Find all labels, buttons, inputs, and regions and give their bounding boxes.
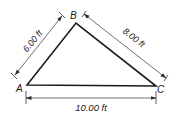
diagram-canvas: A B C 6.00 ft 8.00 ft 10.00 ft [0,0,178,117]
side-label-ac: 10.00 ft [75,102,107,113]
vertex-label-c: C [157,84,165,95]
side-label-ab: 6.00 ft [21,28,45,54]
dimension-bc [82,11,168,81]
dimension-ab [11,12,65,79]
vertex-label-a: A [15,83,23,94]
vertex-label-b: B [70,10,77,21]
triangle-diagram: A B C 6.00 ft 8.00 ft 10.00 ft [0,0,178,117]
